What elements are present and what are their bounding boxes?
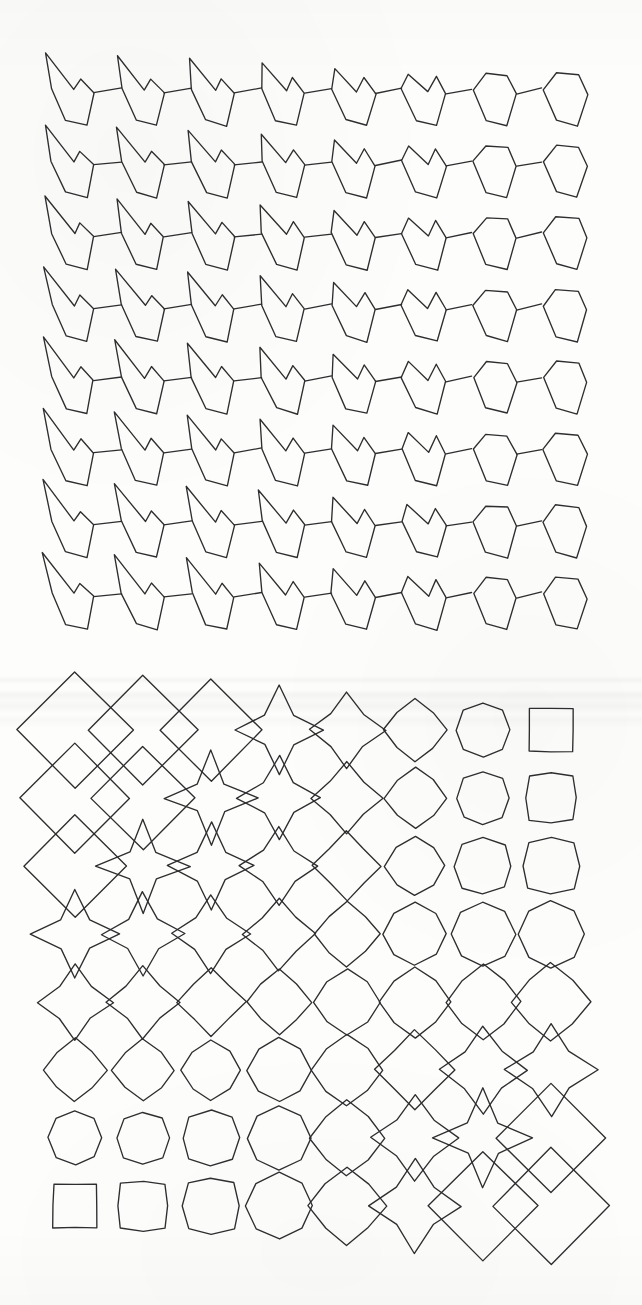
top-link-r4-c4	[305, 304, 332, 309]
bottom-cell-r1-c6	[383, 698, 447, 761]
top-grid-panel	[0, 0, 642, 660]
bottom-cell-r7-c5	[309, 1100, 384, 1176]
bottom-cell-r6-c2	[111, 1039, 174, 1101]
bottom-cell-r7-c8	[496, 1083, 606, 1192]
top-cell-r5-c8	[544, 361, 587, 414]
top-link-r3-c5	[375, 234, 401, 238]
top-link-r5-c4	[305, 376, 332, 381]
top-cell-r5-c5	[332, 354, 376, 413]
bottom-cell-r3-c1	[24, 815, 127, 918]
top-link-r4-c3	[234, 304, 261, 309]
bottom-cell-r5-c5	[314, 969, 381, 1035]
bottom-cell-r2-c3	[164, 750, 258, 845]
bottom-cell-r1-c3	[160, 679, 262, 781]
bottom-cell-r8-c8	[493, 1147, 610, 1264]
top-cell-r7-c1	[43, 479, 94, 557]
top-link-r3-c3	[234, 234, 261, 237]
bottom-cell-r1-c1	[17, 672, 134, 788]
top-link-r6-c7	[517, 450, 542, 455]
top-cell-r6-c3	[187, 415, 234, 486]
bottom-cell-r5-c6	[379, 967, 451, 1038]
top-cell-r2-c8	[543, 145, 587, 197]
top-cell-r6-c2	[114, 412, 163, 485]
top-link-r4-c1	[94, 305, 122, 309]
top-cell-r1-c1	[46, 53, 95, 125]
top-cell-r7-c3	[186, 486, 234, 557]
bottom-cell-r4-c5	[314, 901, 380, 967]
top-cell-r7-c8	[543, 505, 587, 558]
top-cell-r3-c2	[117, 199, 163, 270]
top-cell-r8-c7	[474, 577, 516, 629]
top-link-r8-c6	[446, 593, 472, 598]
top-link-r8-c1	[94, 594, 122, 597]
top-link-r1-c1	[94, 88, 122, 93]
bottom-cell-r8-c3	[182, 1178, 239, 1234]
top-link-r4-c5	[375, 305, 401, 310]
top-link-r6-c1	[94, 450, 122, 453]
top-link-r3-c1	[94, 232, 122, 236]
top-cell-r8-c6	[401, 576, 446, 630]
top-link-r2-c2	[164, 162, 192, 165]
top-link-r1-c3	[234, 88, 261, 93]
top-link-r1-c6	[446, 89, 472, 94]
top-cell-r7-c2	[114, 484, 164, 557]
bottom-cell-r6-c4	[247, 1037, 312, 1101]
bottom-cell-r2-c8	[526, 773, 576, 823]
top-link-r8-c3	[234, 593, 261, 597]
top-link-r7-c3	[234, 521, 261, 525]
top-link-r5-c5	[375, 377, 401, 382]
top-link-r1-c2	[164, 88, 192, 93]
top-cell-r4-c5	[332, 282, 375, 342]
top-link-r8-c2	[164, 594, 192, 597]
top-link-r1-c4	[305, 89, 332, 94]
bottom-cell-r2-c5	[311, 762, 383, 834]
top-link-r4-c7	[517, 304, 542, 310]
top-link-r6-c2	[164, 449, 192, 453]
top-cell-r2-c7	[473, 146, 516, 198]
bottom-cell-r7-c2	[117, 1112, 170, 1164]
top-cell-r5-c7	[474, 362, 517, 414]
top-cell-r1-c7	[473, 73, 516, 126]
top-link-r2-c1	[94, 162, 122, 164]
bottom-cell-r1-c5	[309, 692, 385, 769]
top-cell-r8-c2	[114, 555, 164, 630]
top-link-r7-c2	[164, 521, 192, 525]
bottom-cell-r5-c4	[247, 969, 312, 1035]
spiky-polygon-morph-grid	[0, 0, 642, 660]
diamond-octagon-morph-grid	[0, 660, 642, 1305]
top-cell-r3-c5	[331, 211, 375, 271]
top-cell-r6-c1	[43, 408, 93, 485]
bottom-cell-r2-c6	[384, 767, 447, 828]
top-link-r4-c2	[164, 304, 192, 308]
top-link-r2-c4	[305, 162, 332, 165]
top-cell-r4-c8	[543, 290, 586, 342]
top-link-r8-c5	[375, 593, 401, 598]
top-cell-r3-c8	[543, 217, 587, 270]
bottom-cell-r7-c4	[247, 1106, 311, 1170]
bottom-cell-r6-c1	[43, 1038, 107, 1102]
bottom-cell-r7-c7	[432, 1088, 532, 1188]
bottom-cell-r8-c6	[369, 1158, 462, 1253]
top-link-r2-c5	[375, 160, 401, 166]
bottom-cell-r7-c3	[183, 1110, 239, 1166]
bottom-cell-r4-c6	[383, 902, 446, 965]
top-cell-r8-c8	[544, 577, 587, 629]
bottom-cell-r6-c5	[311, 1034, 382, 1105]
top-cell-r6-c7	[473, 434, 517, 485]
bottom-cell-r1-c2	[88, 675, 198, 785]
top-cell-r7-c7	[473, 506, 517, 558]
bottom-cell-r5-c7	[446, 964, 521, 1040]
bottom-cell-r7-c1	[48, 1111, 102, 1165]
top-link-r7-c1	[94, 521, 122, 524]
bottom-cell-r2-c7	[457, 772, 509, 825]
top-cell-r8-c3	[186, 558, 233, 629]
bottom-cell-r5-c8	[511, 963, 591, 1042]
top-link-r5-c1	[94, 377, 122, 381]
top-link-r1-c5	[375, 88, 401, 93]
top-link-r4-c6	[446, 305, 472, 310]
bottom-cell-r8-c4	[245, 1172, 312, 1239]
top-cell-r7-c6	[402, 504, 446, 557]
bottom-cell-r8-c1	[53, 1184, 97, 1228]
bottom-cell-r6-c8	[504, 1024, 598, 1117]
bottom-cell-r3-c7	[454, 837, 511, 893]
